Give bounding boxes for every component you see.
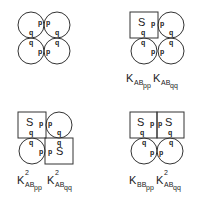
term-K: K bbox=[126, 72, 134, 84]
site-q: q bbox=[29, 29, 33, 37]
site-p: p bbox=[150, 149, 154, 157]
site-q: q bbox=[141, 39, 145, 47]
panel-4: S p p S q q q q p p K BB pp 2 K AB qq bbox=[129, 112, 184, 192]
site-q: q bbox=[29, 139, 33, 147]
term-subsub: pp bbox=[143, 82, 151, 90]
site-p: p bbox=[160, 48, 164, 56]
term-subsub: qq bbox=[170, 82, 178, 90]
site-p: p bbox=[151, 48, 155, 56]
site-p: p bbox=[48, 148, 52, 156]
term-K: K bbox=[47, 174, 55, 186]
term-subsub: pp bbox=[34, 184, 42, 192]
site-p: p bbox=[150, 120, 154, 128]
site-q: q bbox=[55, 39, 59, 47]
panel-1: p p q q q q p p bbox=[18, 12, 70, 64]
site-q: q bbox=[169, 29, 173, 37]
site-q: q bbox=[29, 129, 33, 137]
site-q: q bbox=[169, 139, 173, 147]
site-p: p bbox=[158, 120, 162, 128]
site-q: q bbox=[168, 129, 172, 137]
term-K: K bbox=[129, 174, 137, 186]
site-q: q bbox=[140, 129, 144, 137]
term-K: K bbox=[17, 174, 25, 186]
term-sup: 2 bbox=[25, 169, 29, 176]
state-S-label: S bbox=[56, 145, 63, 157]
state-S-label: S bbox=[165, 116, 172, 128]
site-p: p bbox=[38, 19, 42, 27]
site-p: p bbox=[151, 20, 155, 28]
term-subsub: pp bbox=[146, 184, 154, 192]
site-q: q bbox=[141, 29, 145, 37]
panel-2: S p p q q q q p p K AB pp K AB qq bbox=[126, 12, 184, 90]
site-p: p bbox=[39, 148, 43, 156]
term-subsub: qq bbox=[64, 184, 72, 192]
term-sup: 2 bbox=[164, 169, 168, 176]
term-K: K bbox=[156, 174, 164, 186]
term-subsub: qq bbox=[173, 184, 181, 192]
state-S-label: S bbox=[137, 116, 144, 128]
equilibrium-constant-label: K AB pp K AB qq bbox=[126, 72, 178, 90]
site-q: q bbox=[55, 29, 59, 37]
site-p: p bbox=[38, 48, 42, 56]
equilibrium-constant-label: 2 K AB pp 2 K AB qq bbox=[17, 169, 72, 192]
term-K: K bbox=[153, 72, 161, 84]
site-p: p bbox=[46, 19, 50, 27]
site-p: p bbox=[39, 120, 43, 128]
state-S-label: S bbox=[26, 116, 33, 128]
equilibrium-constant-label: K BB pp 2 K AB qq bbox=[129, 169, 181, 192]
site-q: q bbox=[169, 39, 173, 47]
diagram-canvas: p p q q q q p p S p p q q q q p p K AB p… bbox=[0, 0, 200, 201]
site-p: p bbox=[48, 120, 52, 128]
site-q: q bbox=[142, 139, 146, 147]
site-p: p bbox=[160, 20, 164, 28]
site-q: q bbox=[29, 39, 33, 47]
site-q: q bbox=[57, 129, 61, 137]
site-p: p bbox=[46, 48, 50, 56]
term-sup: 2 bbox=[55, 169, 59, 176]
state-S-label: S bbox=[138, 16, 145, 28]
site-p: p bbox=[159, 149, 163, 157]
panel-3: S p p q q q q p p S 2 K AB pp 2 K AB qq bbox=[17, 112, 73, 192]
